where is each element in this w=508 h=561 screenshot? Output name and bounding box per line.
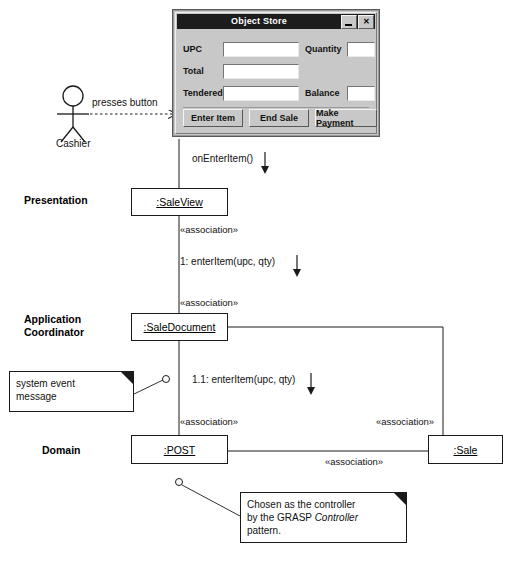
object-box-sale[interactable]: :Sale [428,435,503,464]
grasp-note-anchor [176,479,183,486]
window-titlebar[interactable]: Object Store ✕ [177,14,375,29]
object-name-saledocument: :SaleDocument [144,321,216,333]
end-sale-button[interactable]: End Sale [249,109,309,127]
total-input[interactable] [223,64,299,79]
grasp-note-leader [182,485,240,516]
form-row-total: Total [179,62,373,80]
note-fold-icon [393,492,407,506]
layer-label-application-coordinator: Application Coordinator [24,313,84,339]
close-button[interactable]: ✕ [358,15,374,29]
object-name-saleview: :SaleView [156,196,203,208]
note-line-2-text: by the GRASP [247,512,315,523]
object-name-post: :POST [164,444,196,456]
balance-input[interactable] [347,86,375,101]
note-line-2: by the GRASP Controller [247,511,400,524]
enter-item-button[interactable]: Enter Item [183,109,243,127]
message-label-onenteritem: onEnterItem() [192,153,253,164]
layer-label-presentation: Presentation [24,194,88,207]
balance-label: Balance [305,84,340,102]
minimize-button[interactable] [341,15,357,29]
stereotype-above-post: «association» [180,416,238,427]
window-button-bar: Enter Item End Sale Make Payment [183,109,369,128]
window-title: Object Store [177,14,341,29]
layer-label-line1: Application [24,313,84,326]
note-line-1: system event [16,377,127,390]
quantity-label: Quantity [305,40,342,58]
note-emphasis-controller: Controller [315,512,358,523]
form-row-upc: UPC Quantity [179,40,373,58]
tendered-label: Tendered [183,84,223,102]
form-row-tendered: Tendered Balance [179,84,373,102]
sysevent-note-leader [134,380,163,394]
object-box-saleview[interactable]: :SaleView [131,188,228,216]
make-payment-button[interactable]: Make Payment [315,109,377,127]
note-line-1: Chosen as the controller [247,498,400,511]
actor-cashier-figure [57,86,89,142]
upc-input[interactable] [223,42,299,57]
sysevent-note-anchor [163,376,170,383]
total-label: Total [183,62,204,80]
note-fold-icon [120,371,134,385]
stereotype-post-to-sale: «association» [325,456,383,467]
stereotype-above-saledocument: «association» [180,297,238,308]
diagram-canvas: Object Store ✕ UPC Quantity Total Tender… [0,0,508,561]
stereotype-above-sale: «association» [376,416,434,427]
object-store-form: UPC Quantity Total Tendered Balance Ente… [179,32,373,132]
object-box-post[interactable]: :POST [131,435,228,464]
note-line-2: message [16,390,127,403]
object-store-window[interactable]: Object Store ✕ UPC Quantity Total Tender… [172,9,380,137]
actor-label: Cashier [56,138,90,149]
tendered-input[interactable] [223,86,299,101]
upc-label: UPC [183,40,202,58]
layer-label-line2: Coordinator [24,326,84,339]
object-name-sale: :Sale [454,444,478,456]
message-label-enteritem-11: 1.1: enterItem(upc, qty) [192,374,295,385]
stereotype-saleview-below: «association» [180,224,238,235]
message-label-enteritem-1: 1: enterItem(upc, qty) [180,256,275,267]
presses-button-label: presses button [92,97,158,108]
object-box-saledocument[interactable]: :SaleDocument [131,313,228,341]
layer-label-domain: Domain [42,444,81,457]
quantity-input[interactable] [347,42,375,57]
note-line-3: pattern. [247,524,400,537]
note-system-event-message[interactable]: system event message [9,371,134,412]
note-grasp-controller[interactable]: Chosen as the controller by the GRASP Co… [240,492,407,543]
